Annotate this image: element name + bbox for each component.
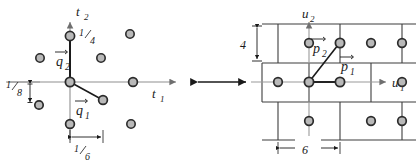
lattice-dot: [305, 117, 314, 126]
vector-p2-subscript: 2: [322, 49, 327, 59]
u2-axis-label: u: [302, 6, 309, 21]
figure-root: t 1 t 2: [0, 0, 416, 163]
lattice-dot: [367, 39, 376, 48]
lattice-dot: [398, 39, 407, 48]
u2-axis-subscript: 2: [310, 14, 315, 24]
vector-q2-letter: q: [56, 54, 63, 69]
t1-axis-label: t: [152, 86, 156, 101]
height-value-label: 4: [240, 38, 246, 52]
lattice-figure-svg: t 1 t 2: [0, 0, 416, 163]
lattice-dot: [126, 30, 134, 38]
width-value-label: 6: [302, 143, 308, 157]
lattice-dot: [274, 78, 283, 87]
one-quarter-numerator: 1: [79, 27, 84, 38]
one-sixth-numerator: 1: [74, 143, 79, 154]
lattice-dot: [367, 117, 376, 126]
vector-q1-letter: q: [76, 103, 83, 118]
lattice-dot: [127, 120, 135, 128]
one-sixth-denominator: 6: [85, 151, 90, 162]
lattice-dot-p1-tip: [335, 77, 344, 86]
one-eighth-numerator: 1: [6, 79, 11, 90]
lattice-dot: [66, 120, 75, 129]
lattice-dot-origin: [304, 77, 313, 86]
lattice-dot-q1-tip: [99, 96, 108, 105]
one-quarter-denominator: 4: [90, 35, 95, 46]
lattice-dot: [97, 54, 105, 62]
lattice-dot-origin: [65, 77, 74, 86]
one-eighth-denominator: 8: [17, 87, 22, 98]
t1-axis-subscript: 1: [160, 94, 165, 104]
lattice-dot: [129, 78, 138, 87]
lattice-dot: [398, 117, 407, 126]
lattice-dot: [65, 31, 74, 40]
vector-q1-subscript: 1: [85, 111, 90, 121]
lattice-dot-p2-tip: [335, 38, 344, 47]
width-label-backdrop: [295, 139, 321, 157]
vector-p1-letter: p: [340, 59, 348, 74]
t2-axis-subscript: 2: [84, 12, 89, 22]
lattice-dot: [305, 39, 314, 48]
vector-p2-letter: p: [312, 41, 320, 56]
vector-q2-subscript: 2: [65, 62, 70, 72]
lattice-dot: [36, 54, 44, 62]
lattice-dot: [398, 78, 407, 87]
lattice-dot: [35, 101, 43, 109]
vector-p1-subscript: 1: [350, 67, 355, 77]
t2-axis-label: t: [76, 4, 80, 19]
